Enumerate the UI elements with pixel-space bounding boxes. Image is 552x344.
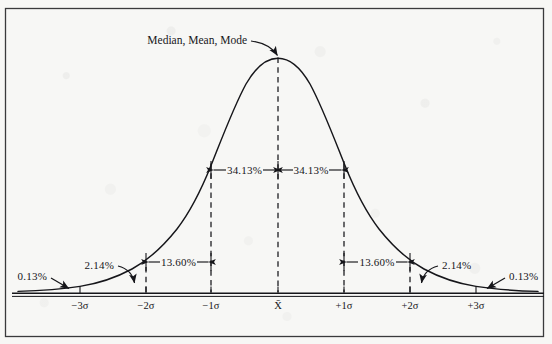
axis-label-plus-1-sigma: +1σ [336, 300, 353, 311]
measure-34-left: 34.13% [211, 161, 278, 179]
normal-distribution-figure: −3σ −2σ −1σ X̄ +1σ +2σ +3σ 34.13% 34.13% [0, 0, 552, 344]
label-2-14-left: 2.14% [85, 259, 114, 271]
label-13-60-left: 13.60% [161, 256, 196, 268]
bell-curve-svg: −3σ −2σ −1σ X̄ +1σ +2σ +3σ 34.13% 34.13% [0, 0, 552, 344]
label-0-13-right: 0.13% [509, 270, 538, 282]
callout-arrow-013-left [51, 278, 69, 289]
axis-label-minus-3-sigma: −3σ [72, 300, 89, 311]
measure-1360-right: 13.60% [344, 253, 410, 271]
label-0-13-left: 0.13% [18, 270, 47, 282]
label-13-60-right: 13.60% [359, 256, 394, 268]
figure-frame [6, 9, 544, 337]
label-34-13-right: 34.13% [293, 164, 328, 176]
axis-label-plus-2-sigma: +2σ [402, 300, 419, 311]
peak-label: Median, Mean, Mode [147, 34, 247, 47]
peak-callout: Median, Mean, Mode [147, 34, 277, 56]
measure-34-right: 34.13% [281, 161, 345, 179]
label-34-13-left: 34.13% [227, 164, 262, 176]
peak-callout-arrow [251, 41, 278, 56]
callout-arrow-013-right [487, 278, 505, 289]
axis-label-minus-1-sigma: −1σ [203, 300, 220, 311]
axis-tick-labels: −3σ −2σ −1σ X̄ +1σ +2σ +3σ [72, 300, 485, 311]
axis-label-plus-3-sigma: +3σ [468, 300, 485, 311]
axis-label-mean: X̄ [274, 300, 282, 311]
callout-013-left: 0.13% [18, 270, 69, 289]
axis-label-minus-2-sigma: −2σ [138, 300, 155, 311]
callout-013-right: 0.13% [487, 270, 538, 289]
axis-ticks [80, 287, 476, 294]
measure-1360-left: 13.60% [146, 253, 211, 271]
label-2-14-right: 2.14% [442, 259, 471, 271]
